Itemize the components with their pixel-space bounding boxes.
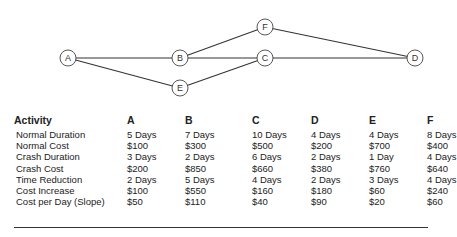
cell-value: $40 — [252, 196, 268, 207]
cell-value: $700 — [369, 140, 390, 151]
header-e: E — [369, 115, 376, 126]
node-a: A — [60, 50, 76, 66]
cell-value: 8 Days — [427, 129, 457, 140]
cell-value: $200 — [311, 140, 332, 151]
cell-value: $550 — [185, 185, 206, 196]
cell-value: $100 — [127, 140, 148, 151]
cell-value: $240 — [427, 185, 448, 196]
cell-value: 6 Days — [252, 151, 282, 162]
row-label: Normal Cost — [16, 140, 69, 151]
svg-text:B: B — [177, 53, 183, 63]
node-d: D — [407, 50, 423, 66]
header-a: A — [127, 115, 135, 126]
cell-value: $640 — [427, 163, 448, 174]
edge-F-D — [265, 27, 415, 58]
cell-value: 2 Days — [311, 151, 341, 162]
cell-value: 4 Days — [427, 151, 457, 162]
svg-text:C: C — [262, 53, 269, 63]
row-label: Cost per Day (Slope) — [16, 196, 105, 207]
header-c: C — [252, 115, 260, 126]
edge-A-E — [68, 58, 180, 88]
edge-B-F — [180, 27, 265, 58]
row-label: Time Reduction — [16, 174, 82, 185]
cell-value: 1 Day — [369, 151, 394, 162]
cell-value: $400 — [427, 140, 448, 151]
node-e: E — [172, 80, 188, 96]
node-b: B — [172, 50, 188, 66]
cell-value: 4 Days — [369, 129, 399, 140]
edge-E-C — [180, 58, 265, 88]
cell-value: $160 — [252, 185, 273, 196]
row-label: Normal Duration — [16, 129, 85, 140]
node-f: F — [257, 19, 273, 35]
header-d: D — [311, 115, 319, 126]
cell-value: 7 Days — [185, 129, 215, 140]
cell-value: 2 Days — [311, 174, 341, 185]
cell-value: 5 Days — [127, 129, 157, 140]
cell-value: $110 — [185, 196, 205, 207]
cell-value: $300 — [185, 140, 206, 151]
node-c: C — [257, 50, 273, 66]
cell-value: $90 — [311, 196, 327, 207]
header-b: B — [185, 115, 193, 126]
cell-value: $200 — [127, 163, 148, 174]
cell-value: $60 — [369, 185, 385, 196]
cell-value: $660 — [252, 163, 273, 174]
cell-value: 10 Days — [252, 129, 287, 140]
cell-value: 4 Days — [311, 129, 341, 140]
header-f: F — [427, 115, 433, 126]
svg-text:F: F — [262, 22, 268, 32]
cell-value: 2 Days — [185, 151, 215, 162]
row-label: Cost Increase — [16, 185, 75, 196]
row-label: Crash Duration — [16, 151, 80, 162]
bottom-rule — [14, 227, 428, 228]
svg-text:A: A — [65, 53, 71, 63]
cell-value: 5 Days — [185, 174, 215, 185]
cell-value: 3 Days — [127, 151, 157, 162]
cell-value: $380 — [311, 163, 332, 174]
cell-value: 4 Days — [252, 174, 282, 185]
cell-value: 4 Days — [427, 174, 457, 185]
cell-value: $60 — [427, 196, 443, 207]
activity-network-diagram: ABCDEF — [0, 0, 443, 110]
cell-value: $100 — [127, 185, 148, 196]
cell-value: 2 Days — [127, 174, 157, 185]
cell-value: $500 — [252, 140, 273, 151]
row-label: Crash Cost — [16, 163, 64, 174]
svg-text:D: D — [412, 53, 419, 63]
header-activity: Activity — [14, 115, 52, 126]
cell-value: $20 — [369, 196, 385, 207]
cell-value: $50 — [127, 196, 143, 207]
cell-value: $850 — [185, 163, 206, 174]
cell-value: 3 Days — [369, 174, 399, 185]
cell-value: $760 — [369, 163, 390, 174]
svg-text:E: E — [177, 83, 183, 93]
cell-value: $180 — [311, 185, 332, 196]
